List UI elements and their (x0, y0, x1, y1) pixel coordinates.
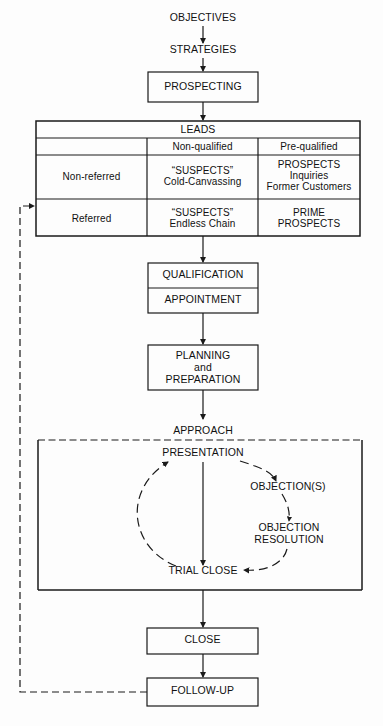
feedback-loop-followup-to-referred (20, 206, 147, 692)
label-strategies: STRATEGIES (143, 44, 263, 56)
flowchart-diagram: OBJECTIVES STRATEGIES PROSPECTING LEADS … (0, 0, 383, 726)
leads-row-label-referred: Referred (36, 213, 147, 224)
label-follow-up: FOLLOW-UP (147, 685, 258, 697)
leads-cell-non-referred-non-qualified: “SUSPECTS” Cold-Canvassing (147, 165, 258, 187)
label-planning-preparation: PLANNING and PREPARATION (148, 350, 258, 385)
label-trial-close: TRIAL CLOSE (150, 565, 256, 577)
label-objection-resolution: OBJECTION RESOLUTION (243, 522, 335, 546)
label-close: CLOSE (147, 634, 258, 646)
label-approach: APPROACH (148, 425, 258, 437)
leads-cell-non-referred-pre-qualified: PROSPECTS Inquiries Former Customers (258, 159, 360, 193)
arc-presentation-to-objections (240, 461, 276, 481)
label-presentation: PRESENTATION (143, 447, 263, 459)
arc-trialclose-to-presentation (137, 462, 176, 566)
leads-cell-referred-non-qualified: “SUSPECTS” Endless Chain (147, 207, 258, 229)
leads-cell-referred-pre-qualified: PRIME PROSPECTS (258, 207, 360, 229)
label-prospecting: PROSPECTING (148, 81, 258, 93)
label-qualification: QUALIFICATION (148, 269, 258, 281)
leads-row-label-non-referred: Non-referred (36, 171, 147, 182)
arc-objections-to-resolution (282, 494, 289, 521)
label-objections: OBJECTION(S) (240, 481, 336, 493)
leads-column-header-non-qualified: Non-qualified (147, 141, 258, 152)
label-objectives: OBJECTIVES (143, 12, 263, 24)
leads-table-title: LEADS (36, 124, 360, 136)
leads-column-header-pre-qualified: Pre-qualified (258, 141, 360, 152)
label-appointment: APPOINTMENT (148, 294, 258, 306)
